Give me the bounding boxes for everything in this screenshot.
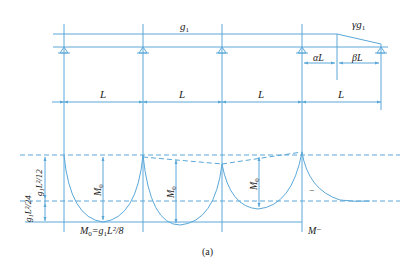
span-label-4: L xyxy=(337,88,344,100)
minus-sign: − xyxy=(309,185,314,195)
left-lower-label: g₁L²/24 xyxy=(23,195,33,222)
load-label: g1 xyxy=(180,20,190,34)
moment-curve-span3 xyxy=(222,152,302,209)
end-load-label: γg1 xyxy=(352,18,366,32)
m0-formula: M0=g1L²/8 xyxy=(79,225,123,238)
reduced-load-line xyxy=(337,34,381,44)
span-label-1: L xyxy=(99,88,106,100)
m-minus-label: M⁻ xyxy=(307,225,322,236)
moment-curve-span2 xyxy=(143,155,222,225)
closing-line-span2 xyxy=(143,157,222,164)
span-label-3: L xyxy=(257,88,264,100)
beta-label: βL xyxy=(351,52,363,63)
span-label-2: L xyxy=(178,88,185,100)
beam-moment-diagram: g1 γg1 αL βL L L L L M0 M0 M0 g₁L²/12 g₁… xyxy=(0,0,411,276)
left-upper-label: g₁L²/12 xyxy=(34,169,44,196)
alpha-label: αL xyxy=(313,52,324,63)
figure-caption: (a) xyxy=(202,246,213,258)
closing-line-span3 xyxy=(222,152,302,164)
